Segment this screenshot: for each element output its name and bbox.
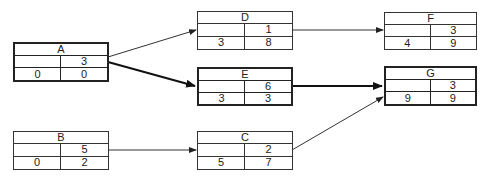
node-g-es: 9: [386, 92, 431, 104]
node-f-name: F: [385, 13, 476, 25]
node-g-duration: 3: [431, 80, 476, 92]
node-b-name: B: [14, 132, 108, 144]
node-b-ef: 2: [61, 157, 108, 169]
node-f-ef: 9: [431, 37, 477, 49]
node-f-duration: 3: [431, 25, 477, 37]
node-e-es: 3: [199, 93, 245, 104]
node-c-es: 5: [198, 157, 245, 169]
node-c: C 2 5 7: [197, 131, 293, 170]
node-b-duration: 5: [61, 144, 108, 156]
node-g: G 3 9 9: [384, 66, 477, 106]
node-f: F 3 4 9: [384, 12, 477, 50]
node-c-blank: [198, 144, 245, 156]
node-d: D 1 3 8: [197, 11, 293, 50]
node-a-blank: [15, 56, 61, 68]
node-e-name: E: [199, 69, 291, 81]
node-d-duration: 1: [245, 24, 292, 36]
node-c-duration: 2: [245, 144, 292, 156]
node-f-es: 4: [385, 37, 431, 49]
node-e: E 6 3 3: [197, 67, 293, 106]
node-b-blank: [14, 144, 61, 156]
node-d-ef: 8: [245, 37, 292, 49]
node-g-ef: 9: [431, 92, 476, 104]
node-c-ef: 7: [245, 157, 292, 169]
node-f-blank: [385, 25, 431, 37]
node-e-ef: 3: [245, 93, 291, 104]
node-d-es: 3: [198, 37, 245, 49]
node-a-es: 0: [15, 68, 61, 80]
edge-c-g: [292, 97, 383, 150]
node-g-name: G: [386, 68, 475, 80]
node-g-blank: [386, 80, 431, 92]
edge-a-d: [108, 30, 196, 57]
node-d-blank: [198, 24, 245, 36]
node-b-es: 0: [14, 157, 61, 169]
node-b: B 5 0 2: [13, 131, 109, 170]
node-c-name: C: [198, 132, 292, 144]
node-a: A 3 0 0: [13, 42, 109, 82]
node-a-duration: 3: [61, 56, 107, 68]
edge-a-e: [108, 62, 195, 86]
node-a-name: A: [15, 44, 107, 56]
node-d-name: D: [198, 12, 292, 24]
node-a-ef: 0: [61, 68, 107, 80]
